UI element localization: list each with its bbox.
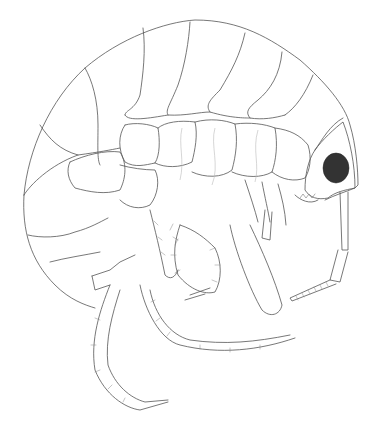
antenna-2 <box>290 280 336 301</box>
pereopod-front <box>230 225 282 315</box>
urosome <box>24 195 135 308</box>
coxal-plates <box>68 120 310 208</box>
gnathopod-2 <box>150 210 178 278</box>
mouthparts <box>245 180 318 240</box>
amphipod-illustration <box>0 0 379 437</box>
body-segments <box>24 22 343 195</box>
eye <box>323 153 349 183</box>
pereopod-rear <box>91 285 168 410</box>
head <box>305 122 355 199</box>
pereopod-middle <box>140 285 295 352</box>
gnathopod-1 <box>171 225 220 300</box>
antenna-1 <box>330 192 348 282</box>
